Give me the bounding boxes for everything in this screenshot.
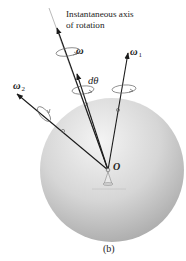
omega2-label: ω2 bbox=[13, 80, 26, 93]
origin-label: O bbox=[113, 161, 120, 172]
rotation-diagram: Instantaneous axis of rotation ω dθ ω1 ω… bbox=[0, 0, 186, 261]
sphere bbox=[40, 98, 184, 242]
omega1-label: ω1 bbox=[130, 46, 143, 59]
omega-label: ω bbox=[76, 45, 84, 56]
omega2-rotation-ring-icon bbox=[35, 105, 53, 124]
figure-caption: (b) bbox=[103, 243, 115, 255]
omega1-rotation-ring-icon bbox=[112, 84, 136, 94]
annotation-line2: of rotation bbox=[66, 20, 105, 30]
annotation-line1: Instantaneous axis bbox=[66, 9, 134, 19]
origin-point bbox=[106, 168, 110, 172]
dtheta-label: dθ bbox=[88, 75, 98, 86]
